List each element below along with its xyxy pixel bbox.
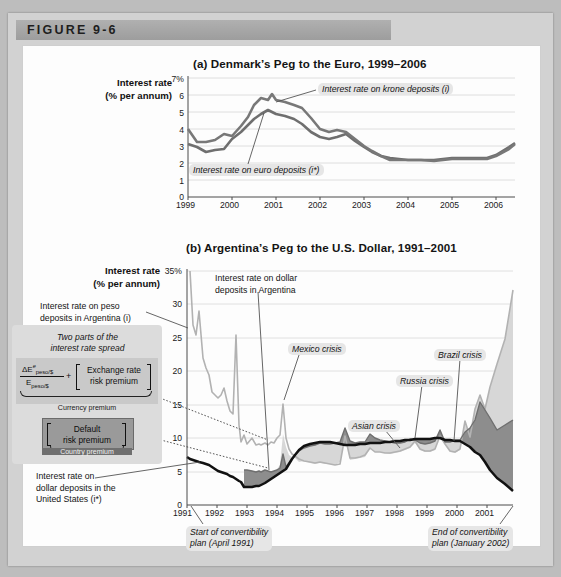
end-plan-note-line2: plan (January 2002)	[432, 538, 509, 548]
country-premium-label: Country premium	[42, 448, 132, 455]
brazil-crisis-text: Brazil crisis	[434, 349, 486, 361]
formula-plus: +	[66, 371, 71, 381]
panel-b-us-annotation-line2: dollar deposits in the	[36, 483, 116, 495]
brazil-crisis-label: Brazil crisis	[434, 350, 486, 361]
currency-premium-brace	[20, 391, 152, 397]
formula-delta-e: ΔE	[22, 365, 33, 374]
panel-b-us-annotation: Interest rate on dollar deposits in the …	[36, 471, 116, 506]
spread-legend-title-line1: Two parts of the	[20, 332, 155, 343]
panel-b-dollar-arg-annotation-line1: Interest rate on dollar	[215, 273, 297, 285]
default-risk-premium-label: Default risk premium	[51, 424, 123, 445]
exchange-risk-bracket-right	[147, 364, 151, 390]
formula-denominator: Epeso/$	[26, 378, 49, 389]
end-plan-leader	[500, 506, 513, 524]
panel-b-peso-annotation-line2: deposits in Argentina (i)	[40, 313, 131, 325]
exchange-risk-line2: risk premium	[80, 376, 148, 387]
start-plan-note: Start of convertibility plan (April 1991…	[186, 526, 272, 551]
formula-denom-subscript: peso/$	[31, 383, 48, 389]
currency-premium-connector	[160, 398, 268, 440]
default-risk-line1: Default	[51, 424, 123, 435]
panel-b-us-annotation-line3: United States (i*)	[36, 494, 116, 506]
formula-numerator: ΔEepeso/$	[22, 363, 53, 375]
formula-numer-subscript: peso/$	[36, 369, 53, 375]
exchange-risk-line1: Exchange rate	[80, 365, 148, 376]
spread-legend-title-line2: interest rate spread	[20, 343, 155, 354]
russia-crisis-label: Russia crisis	[396, 376, 453, 387]
spread-legend-title: Two parts of the interest rate spread	[20, 332, 155, 354]
start-plan-note-line1: Start of convertibility	[190, 527, 268, 537]
mexico-crisis-label: Mexico crisis	[288, 344, 346, 355]
asian-crisis-label: Asian crisis	[348, 421, 400, 432]
russia-crisis-text: Russia crisis	[396, 375, 453, 387]
asian-crisis-text: Asian crisis	[348, 420, 400, 432]
panel-b-peso-annotation-line1: Interest rate on peso	[40, 301, 131, 313]
start-plan-leader	[191, 506, 203, 524]
end-plan-note: End of convertibility plan (January 2002…	[428, 526, 513, 551]
formula-fraction-bar	[20, 376, 64, 377]
panel-b-us-annotation-line1: Interest rate on	[36, 471, 116, 483]
default-risk-bracket-right	[122, 423, 126, 446]
panel-b-dollar-arg-annotation-line2: deposits in Argentina	[215, 285, 297, 297]
panel-b-us-series	[187, 438, 513, 491]
panel-b-peso-annotation: Interest rate on peso deposits in Argent…	[40, 301, 131, 324]
panel-b-dollar-arg-annotation: Interest rate on dollar deposits in Arge…	[215, 273, 297, 296]
figure-page: FIGURE 9-6 (a) Denmark’s Peg to the Euro…	[0, 0, 561, 577]
default-risk-line2: risk premium	[51, 435, 123, 446]
exchange-risk-premium-label: Exchange rate risk premium	[80, 365, 148, 386]
russia-crisis-leader	[415, 385, 422, 438]
start-plan-note-line2: plan (April 1991)	[190, 538, 254, 548]
mexico-crisis-leader	[284, 352, 300, 400]
end-plan-note-line1: End of convertibility	[432, 527, 507, 537]
currency-premium-label: Currency premium	[16, 404, 158, 412]
mexico-crisis-text: Mexico crisis	[288, 343, 346, 355]
